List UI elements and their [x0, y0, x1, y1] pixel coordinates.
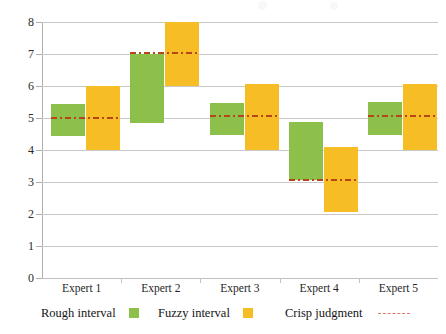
plot-area	[42, 22, 438, 278]
gridline	[42, 278, 438, 279]
x-axis-separator	[359, 278, 360, 283]
x-tick-label: Expert 2	[121, 281, 200, 295]
crisp-judgment-line	[210, 115, 279, 117]
bar-rough-interval	[130, 54, 164, 123]
bar-rough-interval	[51, 104, 85, 136]
y-tick-label: 2	[0, 208, 34, 220]
yellow-square-swatch-icon	[243, 308, 253, 318]
crisp-judgment-line	[130, 52, 199, 54]
y-tick-label: 1	[0, 240, 34, 252]
legend-label-crisp-judgment: Crisp judgment	[285, 305, 362, 321]
crisp-judgment-line	[51, 117, 120, 119]
y-tick-label: 8	[0, 16, 34, 28]
y-tick-label: 3	[0, 176, 34, 188]
y-tick-label: 0	[0, 272, 34, 284]
scan-artifact	[330, 2, 338, 10]
x-tick-label: Expert 3	[200, 281, 279, 295]
green-square-swatch-icon	[129, 308, 139, 318]
x-tick-label: Expert 4	[280, 281, 359, 295]
x-axis-separator	[200, 278, 201, 283]
y-tick-label: 7	[0, 48, 34, 60]
crisp-judgment-line	[368, 115, 437, 117]
y-tick-mark	[36, 278, 42, 279]
legend-label-fuzzy-interval: Fuzzy interval	[158, 305, 230, 321]
x-tick-label: Expert 1	[42, 281, 121, 295]
bar-rough-interval	[289, 122, 323, 180]
legend-item-crisp-judgment: Crisp judgment	[285, 304, 410, 322]
y-tick-label: 6	[0, 80, 34, 92]
bar-rough-interval	[368, 102, 402, 135]
scan-artifact	[258, 1, 267, 10]
bar-rough-interval	[210, 103, 244, 135]
legend-label-rough-interval: Rough interval	[41, 305, 116, 321]
y-tick-label: 5	[0, 112, 34, 124]
dashed-line-swatch-icon	[378, 313, 410, 314]
chart-container: 876543210 Expert 1Expert 2Expert 3Expert…	[0, 0, 446, 334]
x-axis-labels: Expert 1Expert 2Expert 3Expert 4Expert 5	[42, 281, 438, 301]
y-tick-label: 4	[0, 144, 34, 156]
bar-fuzzy-interval	[403, 84, 437, 150]
x-axis-separator	[280, 278, 281, 283]
chart-legend: Rough interval Fuzzy interval Crisp judg…	[0, 304, 446, 326]
x-tick-label: Expert 5	[359, 281, 438, 295]
legend-item-fuzzy-interval: Fuzzy interval	[158, 304, 253, 322]
crisp-judgment-line	[289, 179, 358, 181]
legend-item-rough-interval: Rough interval	[41, 304, 139, 322]
x-axis-separator	[121, 278, 122, 283]
